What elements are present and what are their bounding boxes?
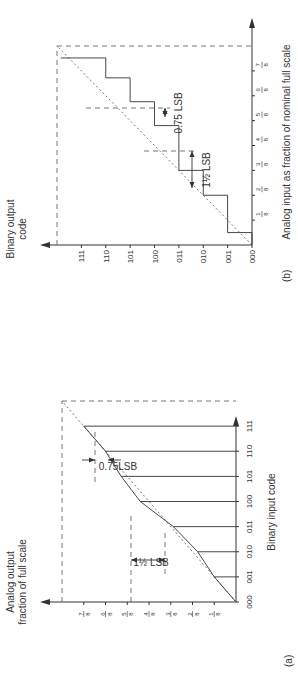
panel-b-adc-transfer: 00000101001110010111011118283848586878 1… xyxy=(5,18,292,282)
panel-a-y-tick-den: 8 xyxy=(150,612,156,616)
panel-a-y-label-line1: Analog output xyxy=(5,551,16,613)
panel-b-code-label: 000 xyxy=(248,249,257,263)
panel-b-x-tick-den: 8 xyxy=(263,112,269,116)
panel-b-y-arrow-icon xyxy=(40,242,50,248)
panel-b-x-tick-den: 8 xyxy=(263,137,269,141)
panel-a-annotation-1half: 1½ LSB xyxy=(133,557,169,568)
panel-b-x-tick-num: 1 xyxy=(255,212,261,216)
panel-b-x-tick-den: 8 xyxy=(263,87,269,91)
panel-a-y-tick-den: 8 xyxy=(215,612,221,616)
panel-b-code-label: 110 xyxy=(102,249,111,262)
panel-a-tag: (a) xyxy=(283,655,294,667)
panel-a-y-tick-den: 8 xyxy=(194,612,200,616)
panel-a-dac-transfer: 00000101001110010111011118283848586878 1… xyxy=(5,401,294,667)
panel-a-code-label: 111 xyxy=(245,420,254,433)
panel-b-annotation-075: 0.75 LSB xyxy=(173,92,184,133)
panel-a-y-tick-den: 8 xyxy=(85,612,91,616)
panel-a-y-tick-num: 5 xyxy=(121,612,127,616)
panel-b-x-tick-num: 6 xyxy=(255,87,261,91)
panel-a-y-tick-num: 1 xyxy=(208,612,214,616)
panel-b-x-label: Analog input as fraction of nominal full… xyxy=(281,44,292,240)
panel-b-annotation-1half: 1½ LSB xyxy=(201,152,212,188)
panel-a-y-tick-den: 8 xyxy=(128,612,134,616)
panel-a-code-label: 011 xyxy=(245,520,254,533)
arrow-icon xyxy=(190,182,195,188)
panel-a-y-label-line2: fraction of full scale xyxy=(17,539,28,625)
panel-b-code-label: 011 xyxy=(175,249,184,262)
panel-b-x-tick-num: 7 xyxy=(255,63,261,67)
panel-a-x-arrow-icon xyxy=(233,416,239,426)
panel-a-y-tick-num: 2 xyxy=(187,612,193,616)
panel-a-code-label: 101 xyxy=(245,469,254,483)
arrow-icon xyxy=(89,458,95,463)
panel-b-code-label: 010 xyxy=(199,249,208,263)
panel-b-x-tick-den: 8 xyxy=(263,63,269,67)
panel-b-code-label: 111 xyxy=(77,249,86,262)
panel-b-code-label: 101 xyxy=(126,249,135,263)
panel-b-code-label: 001 xyxy=(224,249,233,263)
panel-b-y-label-line2: code xyxy=(17,218,28,240)
panel-a-actual-curve xyxy=(84,426,236,602)
panel-a-code-label: 001 xyxy=(245,570,254,584)
panel-a-code-label: 000 xyxy=(245,595,254,609)
panel-b-x-tick-num: 3 xyxy=(255,162,261,166)
panel-a-code-label: 100 xyxy=(245,494,254,508)
panel-b-staircase xyxy=(61,58,252,245)
panel-b-code-label: 100 xyxy=(151,249,160,263)
panel-b-tag: (b) xyxy=(281,270,292,282)
panel-a-code-label: 010 xyxy=(245,545,254,559)
panel-b-x-tick-num: 4 xyxy=(255,137,261,141)
panel-a-x-label: Binary input code xyxy=(266,473,277,551)
panel-b-x-tick-den: 8 xyxy=(263,212,269,216)
arrow-icon xyxy=(190,151,195,157)
panel-a-y-tick-num: 6 xyxy=(100,612,106,616)
panel-a-y-tick-num: 4 xyxy=(143,612,149,616)
panel-a-y-tick-num: 3 xyxy=(165,612,171,616)
panel-b-x-arrow-icon xyxy=(249,18,255,28)
panel-b-x-tick-den: 8 xyxy=(263,162,269,166)
panel-b-ideal-line xyxy=(57,46,252,245)
panel-a-code-label: 110 xyxy=(245,444,254,457)
panel-b-x-tick-num: 2 xyxy=(255,187,261,191)
panel-b-y-label-line1: Binary output xyxy=(5,199,16,258)
panel-a-y-tick-den: 8 xyxy=(107,612,113,616)
panel-b-x-tick-num: 5 xyxy=(255,112,261,116)
dac-adc-transfer-diagram: 00000101001110010111011118283848586878 1… xyxy=(0,0,298,682)
panel-b-x-tick-den: 8 xyxy=(263,187,269,191)
panel-a-y-arrow-icon xyxy=(40,599,50,605)
panel-a-y-tick-num: 7 xyxy=(78,612,84,616)
panel-a-y-tick-den: 8 xyxy=(172,612,178,616)
panel-a-annotation-075: 0.75LSB xyxy=(99,461,138,472)
